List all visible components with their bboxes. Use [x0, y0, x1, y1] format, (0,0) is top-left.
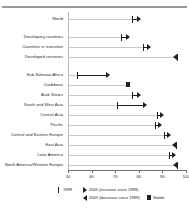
marker-2005-increase [106, 72, 110, 78]
marker-1999 [177, 162, 178, 169]
chart-row: North America/Western Europe [0, 160, 189, 170]
stable-marker [126, 82, 130, 87]
legend-label: 1999 [63, 186, 72, 193]
row-label: Sub-Saharan Africa [0, 70, 63, 80]
row-leader-line [69, 19, 133, 20]
chart-row: Developed countries [0, 52, 189, 62]
row-label: World [0, 14, 63, 24]
row-label: Arab States [0, 90, 63, 100]
marker-2005-increase [172, 152, 176, 158]
row-label: South and West Asia [0, 100, 63, 110]
legend-label: Stable [153, 194, 165, 201]
row-label: North America/Western Europe [0, 160, 63, 170]
chart-row: Countries in transition [0, 42, 189, 52]
row-label: Pacific [0, 120, 63, 130]
chart-legend: 19992005 (increase since 1999)2005 (decr… [0, 186, 189, 210]
x-axis-tick-label: 50 [60, 174, 76, 180]
x-axis-tick-label: 90 [154, 174, 170, 180]
row-leader-line [69, 37, 121, 38]
legend-label: 2005 (decrease since 1999) [89, 194, 140, 201]
legend-square-icon [146, 194, 151, 200]
row-leader-line [69, 95, 133, 96]
marker-2005-increase [147, 44, 151, 50]
x-axis-tick [186, 170, 187, 173]
legend-label: 2005 (increase since 1999) [89, 186, 138, 193]
legend-arrow-right-icon [82, 186, 87, 193]
chart-row: East Asia [0, 140, 189, 150]
header-divider [2, 6, 187, 8]
row-label: Caribbean [0, 80, 63, 90]
chart-row: Caribbean [0, 80, 189, 90]
x-axis-tick [68, 170, 69, 173]
row-leader-line [69, 135, 165, 136]
marker-1999 [177, 54, 178, 61]
x-axis-tick [139, 170, 140, 173]
legend-arrow-left-icon [82, 194, 87, 201]
marker-2005-decrease [172, 142, 176, 148]
x-axis-line [68, 170, 186, 171]
row-leader-line [69, 125, 155, 126]
x-axis-tick [115, 170, 116, 173]
chart-container: WorldDeveloping countriesCountries in tr… [0, 0, 189, 212]
row-leader-line [69, 145, 172, 146]
marker-2005-decrease [173, 162, 177, 168]
chart-row: Central Asia [0, 110, 189, 120]
chart-row: Developing countries [0, 32, 189, 42]
row-label: Developing countries [0, 32, 63, 42]
change-shaft [77, 75, 106, 76]
x-axis-tick-label: 70 [107, 174, 123, 180]
marker-2005-decrease [173, 54, 177, 60]
row-label: Central Asia [0, 110, 63, 120]
row-label: East Asia [0, 140, 63, 150]
row-leader-line [69, 155, 169, 156]
plot-area: WorldDeveloping countriesCountries in tr… [0, 12, 189, 170]
row-leader-line [69, 47, 144, 48]
row-leader-line [69, 57, 173, 58]
marker-2005-increase [137, 92, 141, 98]
x-axis-tick-label: 60 [84, 174, 100, 180]
x-axis-tick [92, 170, 93, 173]
chart-row: Pacific [0, 120, 189, 130]
row-label: Developed countries [0, 52, 63, 62]
marker-2005-increase [167, 132, 171, 138]
row-label: Central and Eastern Europe [0, 130, 63, 140]
x-axis-tick [162, 170, 163, 173]
row-leader-line [69, 165, 173, 166]
x-axis-tick-label: 100 [178, 174, 189, 180]
chart-row: Latin America [0, 150, 189, 160]
row-label: Countries in transition [0, 42, 63, 52]
chart-row: Central and Eastern Europe [0, 130, 189, 140]
marker-2005-increase [137, 16, 141, 22]
chart-row: World [0, 14, 189, 24]
marker-2005-increase [158, 122, 162, 128]
marker-2005-increase [126, 34, 130, 40]
x-axis-tick-label: 80 [131, 174, 147, 180]
marker-1999 [176, 142, 177, 149]
legend-tick-icon [56, 186, 59, 193]
row-leader-line [69, 115, 158, 116]
row-label: Latin America [0, 150, 63, 160]
chart-row: Arab States [0, 90, 189, 100]
marker-2005-increase [160, 112, 164, 118]
row-leader-line [69, 105, 118, 106]
marker-2005-increase [143, 102, 147, 108]
row-leader-line [69, 85, 128, 86]
chart-row: South and West Asia [0, 100, 189, 110]
change-shaft [118, 105, 143, 106]
chart-row: Sub-Saharan Africa [0, 70, 189, 80]
